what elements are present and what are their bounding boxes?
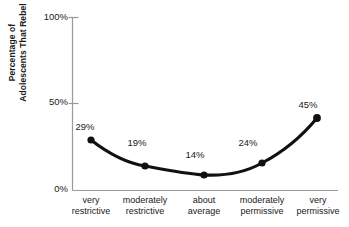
plot-area [0,0,349,227]
data-point-marker [258,159,265,166]
data-label-2: 14% [180,149,210,160]
x-axis-category-3-line1: moderately [240,195,285,205]
x-axis-category-1-line1: moderately [123,195,168,205]
x-axis-category-2-line2: average [171,206,237,217]
data-point-marker [87,136,94,143]
data-label-0: 29% [70,121,100,132]
x-axis-category-2-line1: about [193,195,216,205]
data-point-marker [200,171,207,178]
x-axis-category-4-line2: permissive [285,206,349,217]
rebellion-line-chart: Percentage of Adolescents That Rebel 100… [0,0,349,227]
x-axis-category-4-line1: very [309,195,326,205]
data-label-1: 19% [122,137,152,148]
x-axis-category-1: moderately restrictive [112,195,178,217]
x-axis-category-2: about average [171,195,237,217]
data-point-marker [141,162,148,169]
data-label-3: 24% [233,137,263,148]
data-point-marker [313,114,321,122]
x-axis-category-1-line2: restrictive [112,206,178,217]
x-axis-category-4: very permissive [285,195,349,217]
data-label-4: 45% [293,99,323,110]
x-axis-category-0-line1: very [82,195,99,205]
